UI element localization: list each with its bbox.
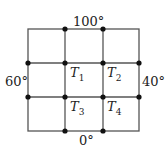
node-label-t3: T3 xyxy=(70,100,84,117)
top-boundary-label: 100° xyxy=(73,15,104,28)
right-boundary-label: 40° xyxy=(142,75,165,88)
left-boundary-label: 60° xyxy=(5,75,28,88)
node-label-t4: T4 xyxy=(107,100,121,117)
node-label-t1: T1 xyxy=(70,66,84,83)
bottom-boundary-label: 0° xyxy=(79,134,94,147)
node-label-t2: T2 xyxy=(107,66,121,83)
